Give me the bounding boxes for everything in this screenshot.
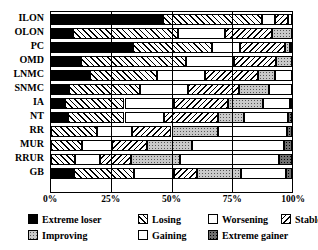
y-axis-label-ilon: ILON [0, 11, 48, 25]
y-axis-label-lnmc: LNMC [0, 67, 48, 81]
legend-label-improving: Improving [42, 230, 87, 241]
y-axis-label-ia: IA [0, 95, 48, 109]
bar-segment-losing [74, 168, 134, 179]
bar-segment-losing [68, 112, 125, 123]
bar-segment-stable [275, 14, 288, 25]
legend-row-bottom: ImprovingGainingExtreme gainer [28, 227, 300, 243]
bar-segment-gaining [288, 14, 292, 25]
bar-segment-gaining [269, 84, 292, 95]
bar-segment-improving [172, 126, 219, 137]
bar-segment-losing [51, 126, 97, 137]
bar-segment-extreme-gainer [287, 126, 292, 137]
legend-swatch-improving-icon [28, 230, 38, 240]
legend-item-worsening[interactable]: Worsening [208, 214, 268, 225]
bar-segment-gaining [244, 112, 289, 123]
bar-segment-stable [174, 168, 197, 179]
bar-segment-stable [240, 42, 285, 53]
legend-swatch-worsening-icon [208, 214, 218, 224]
legend-label-extreme-gainer: Extreme gainer [222, 230, 288, 241]
bar-segment-gaining [192, 140, 284, 151]
y-axis-label-rrur: RRUR [0, 151, 48, 165]
bar-segment-losing [90, 70, 157, 81]
bar-segment-losing [163, 14, 262, 25]
bar-segment-extreme-gainer [286, 168, 292, 179]
legend-swatch-extreme-loser-icon [28, 214, 38, 224]
y-axis-label-olon: OLON [0, 25, 48, 39]
legend-item-stable[interactable]: Stable [281, 214, 318, 225]
bar-segment-losing [65, 98, 124, 109]
bar-segment-improving [147, 140, 192, 151]
x-tick-25: 25% [101, 194, 120, 204]
bar-segment-stable [234, 56, 276, 67]
gridline-75 [232, 12, 233, 192]
bar-segment-stable [112, 140, 147, 151]
legend-swatch-gaining-icon [138, 230, 148, 240]
legend-item-improving[interactable]: Improving [28, 230, 87, 241]
y-axis-label-mur: MUR [0, 137, 48, 151]
y-axis-label-nt: NT [0, 109, 48, 123]
bar-segment-extreme-gainer [290, 98, 292, 109]
bar-segment-gaining [218, 126, 287, 137]
bar-segment-worsening [125, 98, 174, 109]
legend-label-losing: Losing [152, 214, 181, 225]
bar-segment-gaining [275, 70, 292, 81]
bar-segment-losing [133, 42, 213, 53]
legend-label-extreme-loser: Extreme loser [42, 214, 102, 225]
legend-row-top: Extreme loserLosingWorseningStable [28, 211, 300, 227]
legend-swatch-stable-icon [281, 214, 291, 224]
bar-segment-improving [258, 70, 275, 81]
x-tick-50: 50% [162, 194, 181, 204]
y-axis-label-pc: PC [0, 39, 48, 53]
bar-segment-stable [100, 154, 130, 165]
bar-segment-extreme-loser [51, 98, 65, 109]
legend-label-stable: Stable [295, 214, 318, 225]
bar-segment-worsening [134, 168, 174, 179]
bar-segment-worsening [178, 28, 225, 39]
bar-segment-extreme-gainer [288, 112, 292, 123]
bar-segment-gaining [180, 154, 279, 165]
bar-segment-extreme-loser [51, 14, 163, 25]
bar-segment-improving [239, 84, 269, 95]
y-axis-label-gb: GB [0, 165, 48, 179]
bar-segment-worsening [97, 126, 132, 137]
bar-segment-extreme-loser [51, 28, 73, 39]
x-axis-tick-labels: 0%25%50%75%100% [50, 194, 293, 208]
legend-swatch-extreme-gainer-icon [208, 230, 218, 240]
bar-segment-improving [197, 168, 242, 179]
bar-segment-worsening [75, 154, 100, 165]
bar-segment-worsening [262, 14, 275, 25]
bar-segment-losing [51, 154, 75, 165]
bar-segment-stable [174, 98, 228, 109]
bar-segment-gaining [290, 42, 292, 53]
bar-segment-gaining [263, 98, 290, 109]
bar-segment-stable [132, 126, 172, 137]
legend-item-losing[interactable]: Losing [138, 214, 181, 225]
bar-segment-worsening [140, 84, 188, 95]
bar-segment-worsening [157, 70, 205, 81]
chart-container: ILONOLONPCOMDLNMCSNMCIANTRRMURRRURGB 0%2… [0, 0, 318, 250]
bar-segment-extreme-gainer [279, 154, 292, 165]
bar-segment-worsening [125, 112, 165, 123]
bar-segment-losing [81, 56, 186, 67]
bar-segment-extreme-loser [51, 168, 74, 179]
bar-segment-losing [73, 28, 178, 39]
x-tick-75: 75% [223, 194, 242, 204]
bar-segment-worsening [82, 140, 112, 151]
bar-segment-improving [228, 98, 263, 109]
bar-segment-extreme-loser [51, 42, 133, 53]
legend-item-extreme-gainer[interactable]: Extreme gainer [208, 230, 288, 241]
bar-segment-worsening [212, 42, 240, 53]
legend-item-extreme-loser[interactable]: Extreme loser [28, 214, 102, 225]
plot-area [50, 11, 293, 193]
x-tick-100: 100% [281, 194, 305, 204]
bar-segment-gaining [241, 168, 286, 179]
y-axis-label-omd: OMD [0, 53, 48, 67]
legend-item-gaining[interactable]: Gaining [138, 230, 186, 241]
bar-segment-extreme-loser [51, 84, 69, 95]
bar-segment-extreme-loser [51, 112, 68, 123]
gridline-50 [172, 12, 173, 192]
legend-label-gaining: Gaining [152, 230, 186, 241]
y-axis-label-rr: RR [0, 123, 48, 137]
bar-segment-extreme-loser [51, 56, 81, 67]
y-axis-label-snmc: SNMC [0, 81, 48, 95]
